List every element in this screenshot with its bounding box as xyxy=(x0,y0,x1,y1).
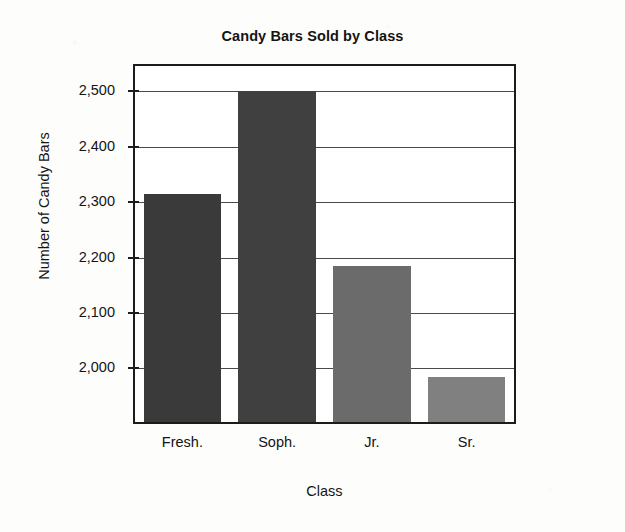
x-tick-label: Sr. xyxy=(419,434,514,450)
x-axis-title: Class xyxy=(133,483,516,499)
y-tick-mark xyxy=(128,201,139,203)
x-tick-label: Fresh. xyxy=(135,434,230,450)
y-tick-label: 2,000 xyxy=(43,359,115,375)
y-tick-mark xyxy=(128,257,139,259)
bar-chart-figure: Candy Bars Sold by Class 2,5002,4002,300… xyxy=(0,0,625,532)
y-tick-label: 2,300 xyxy=(43,193,115,209)
y-axis: 2,5002,4002,3002,2002,1002,000 xyxy=(0,0,625,532)
y-tick-mark xyxy=(128,90,139,92)
y-tick-label: 2,200 xyxy=(43,249,115,265)
y-axis-title: Number of Candy Bars xyxy=(36,76,52,336)
y-tick-mark xyxy=(128,146,139,148)
y-tick-mark xyxy=(128,312,139,314)
y-tick-label: 2,400 xyxy=(43,138,115,154)
x-tick-label: Jr. xyxy=(325,434,420,450)
x-tick-label: Soph. xyxy=(230,434,325,450)
y-tick-label: 2,500 xyxy=(43,82,115,98)
y-tick-label: 2,100 xyxy=(43,304,115,320)
y-tick-mark xyxy=(128,367,139,369)
